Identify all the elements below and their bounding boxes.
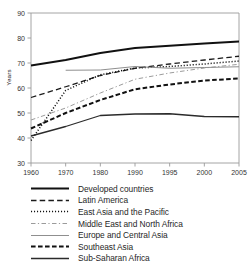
legend-line-swatch-icon bbox=[29, 230, 73, 241]
svg-text:2005: 2005 bbox=[231, 169, 247, 176]
plot-area: Years 3040506070809019601970198019901995… bbox=[0, 0, 251, 180]
plot-svg: 3040506070809019601970198019901995200020… bbox=[0, 0, 251, 180]
series-line bbox=[66, 67, 239, 71]
legend-line-swatch-icon bbox=[29, 183, 73, 194]
svg-text:70: 70 bbox=[17, 60, 25, 67]
legend-line-swatch-icon bbox=[29, 206, 73, 217]
legend-line-swatch-icon bbox=[29, 195, 73, 206]
chart-legend: Developed countriesLatin AmericaEast Asi… bbox=[0, 183, 251, 267]
legend-line-swatch-icon bbox=[29, 218, 73, 229]
series-line bbox=[31, 114, 239, 136]
svg-text:90: 90 bbox=[17, 10, 25, 17]
legend-item[interactable]: Latin America bbox=[0, 195, 251, 207]
svg-text:60: 60 bbox=[17, 85, 25, 92]
legend-item-label: East Asia and the Pacific bbox=[73, 207, 169, 217]
legend-item[interactable]: East Asia and the Pacific bbox=[0, 206, 251, 218]
legend-item[interactable]: Southeast Asia bbox=[0, 241, 251, 253]
legend-item-label: Europe and Central Asia bbox=[73, 230, 168, 240]
svg-text:2000: 2000 bbox=[197, 169, 213, 176]
legend-item[interactable]: Middle East and North Africa bbox=[0, 218, 251, 230]
series-line bbox=[31, 64, 239, 120]
legend-item[interactable]: Sub-Saharan Africa bbox=[0, 253, 251, 265]
svg-text:1990: 1990 bbox=[127, 169, 143, 176]
svg-text:30: 30 bbox=[17, 160, 25, 167]
svg-text:40: 40 bbox=[17, 135, 25, 142]
svg-text:80: 80 bbox=[17, 35, 25, 42]
legend-item-label: Latin America bbox=[73, 195, 128, 205]
svg-text:1970: 1970 bbox=[58, 169, 74, 176]
legend-item-label: Sub-Saharan Africa bbox=[73, 253, 150, 263]
svg-text:50: 50 bbox=[17, 110, 25, 117]
life-expectancy-line-chart: Years 3040506070809019601970198019901995… bbox=[0, 0, 251, 267]
legend-item-label: Developed countries bbox=[73, 184, 153, 194]
series-line bbox=[31, 42, 239, 66]
y-axis-label: Years bbox=[5, 58, 12, 98]
legend-line-swatch-icon bbox=[29, 253, 73, 264]
series-line bbox=[31, 79, 239, 129]
legend-item-label: Southeast Asia bbox=[73, 242, 133, 252]
series-line bbox=[31, 61, 239, 141]
legend-item-label: Middle East and North Africa bbox=[73, 219, 183, 229]
legend-item[interactable]: Europe and Central Asia bbox=[0, 229, 251, 241]
legend-item[interactable]: Developed countries bbox=[0, 183, 251, 195]
legend-line-swatch-icon bbox=[29, 241, 73, 252]
svg-text:1980: 1980 bbox=[93, 169, 109, 176]
series-line bbox=[31, 56, 239, 97]
svg-text:1960: 1960 bbox=[23, 169, 39, 176]
svg-text:1995: 1995 bbox=[162, 169, 178, 176]
